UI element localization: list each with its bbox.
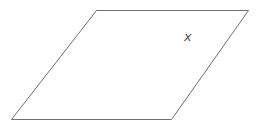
parallelogram-shape bbox=[12, 11, 249, 120]
variable-label-x: x bbox=[183, 29, 192, 44]
diagram-canvas: x bbox=[0, 0, 256, 128]
